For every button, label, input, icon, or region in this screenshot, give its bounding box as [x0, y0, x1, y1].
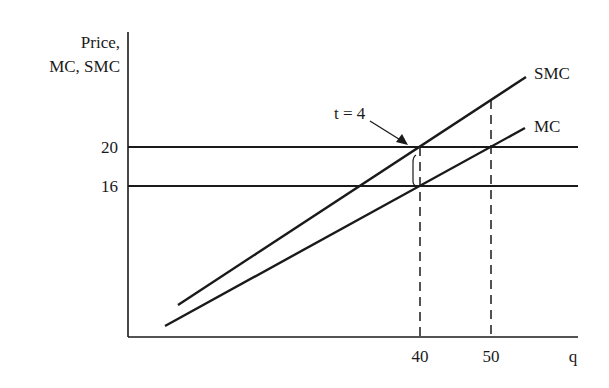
tax-bracket — [413, 155, 416, 186]
y-tick-20: 20 — [101, 138, 118, 157]
x-axis-label: q — [569, 347, 578, 366]
tax-label: t = 4 — [334, 104, 366, 123]
x-tick-50: 50 — [483, 347, 500, 366]
y-tick-16: 16 — [101, 177, 118, 196]
x-tick-40: 40 — [412, 347, 429, 366]
chart-canvas: Price, MC, SMC 20 16 40 50 q SMC MC t = … — [0, 0, 609, 388]
smc-label: SMC — [534, 64, 570, 83]
y-axis-label-line2: MC, SMC — [49, 57, 120, 76]
mc-label: MC — [534, 117, 560, 136]
mc-curve — [165, 128, 525, 326]
y-axis-label-line1: Price, — [81, 33, 120, 52]
tax-arrow-head-icon — [396, 134, 408, 145]
tax-arrow-line — [370, 121, 402, 141]
